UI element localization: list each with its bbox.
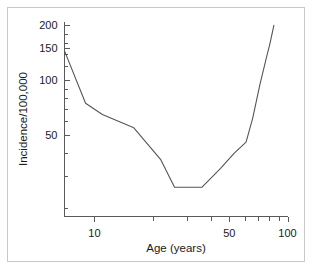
x-tick-label: 10 xyxy=(88,227,100,239)
x-tick-label: 50 xyxy=(223,227,235,239)
incidence-vs-age-chart: 50100150200 1050100 Incidence/100,000 Ag… xyxy=(0,0,319,277)
y-tick-label: 150 xyxy=(39,42,57,54)
y-tick-label: 50 xyxy=(45,129,57,141)
incidence-curve xyxy=(65,25,274,187)
y-axis-title: Incidence/100,000 xyxy=(17,72,29,166)
y-tick-label: 200 xyxy=(39,19,57,31)
x-axis-title: Age (years) xyxy=(146,242,206,254)
y-tick-label: 100 xyxy=(39,74,57,86)
x-axis-ticks xyxy=(95,217,289,222)
y-axis-tick-labels: 50100150200 xyxy=(39,19,57,141)
figure-root: 50100150200 1050100 Incidence/100,000 Ag… xyxy=(0,0,319,277)
x-axis-tick-labels: 1050100 xyxy=(88,227,296,239)
x-tick-label: 100 xyxy=(278,227,296,239)
